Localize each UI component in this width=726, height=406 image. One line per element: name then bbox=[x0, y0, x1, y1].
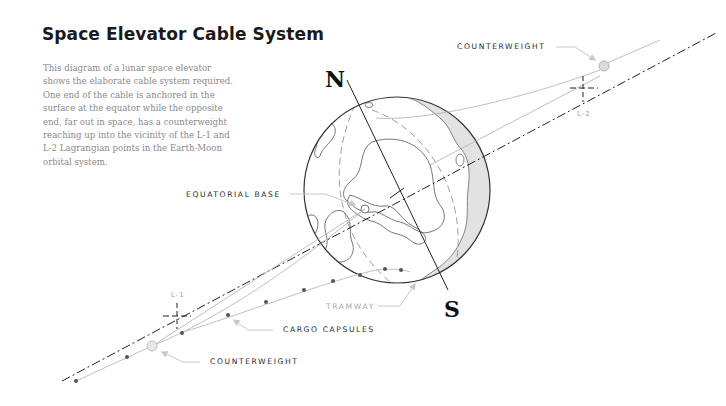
cargo-capsules-label: CARGO CAPSULES bbox=[283, 325, 375, 334]
tramway-label: TRAMWAY bbox=[326, 302, 375, 311]
l2-label: L-2 bbox=[577, 110, 591, 118]
counterweight-top bbox=[599, 61, 609, 71]
space-elevator-diagram bbox=[0, 0, 726, 406]
l1-label: L-1 bbox=[171, 291, 185, 299]
counterweight-top-label: COUNTERWEIGHT bbox=[457, 42, 546, 51]
south-pole-label: S bbox=[444, 296, 460, 322]
equatorial-base-label: EQUATORIAL BASE bbox=[186, 190, 281, 199]
north-pole-label: N bbox=[325, 66, 345, 92]
counterweight-bottom-label: COUNTERWEIGHT bbox=[210, 357, 299, 366]
counterweight-bottom bbox=[147, 341, 157, 351]
